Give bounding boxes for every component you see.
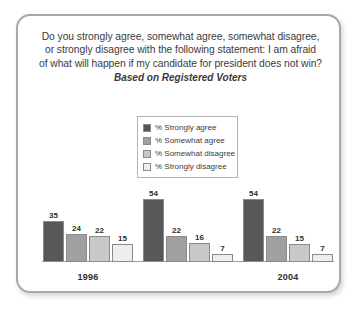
bar-strongly-disagree[interactable]	[312, 254, 333, 262]
legend-item-strongly-disagree: % Strongly disagree	[143, 160, 232, 173]
bar-strongly-disagree[interactable]	[112, 244, 133, 262]
legend-label-strongly-agree: % Strongly agree	[155, 123, 216, 132]
bar-strongly-agree[interactable]	[243, 199, 264, 262]
bar-value-label: 16	[188, 233, 211, 242]
bar-strongly-agree[interactable]	[43, 221, 64, 262]
bar-group-2008: 54221572008	[242, 192, 334, 262]
bar-slot: 35	[42, 192, 65, 262]
title-line-3: of what will happen if my candidate for …	[26, 57, 335, 70]
legend-item-somewhat-agree: % Somewhat agree	[143, 134, 232, 147]
bar-slot: 7	[211, 192, 234, 262]
bar-somewhat-agree[interactable]	[266, 236, 287, 262]
title-line-2: or strongly disagree with the following …	[26, 43, 335, 56]
bar-value-label: 7	[311, 244, 334, 253]
bar-value-label: 15	[288, 234, 311, 243]
bar-somewhat-agree[interactable]	[66, 234, 87, 262]
bar-group-bars: 5422157	[242, 192, 334, 262]
bar-slot: 54	[242, 192, 265, 262]
bar-slot: 22	[88, 192, 111, 262]
bar-value-label: 7	[211, 244, 234, 253]
chart-subtitle: Based on Registered Voters	[26, 70, 335, 85]
bar-slot: 16	[188, 192, 211, 262]
legend-label-somewhat-agree: % Somewhat agree	[155, 136, 225, 145]
legend-item-somewhat-disagree: % Somewhat disagree	[143, 147, 232, 160]
bar-group-2004: 54221672004	[142, 192, 234, 262]
legend-swatch-strongly-agree	[143, 124, 151, 132]
bar-value-label: 22	[265, 226, 288, 235]
bar-slot: 15	[288, 192, 311, 262]
legend-swatch-somewhat-disagree	[143, 150, 151, 158]
legend-label-somewhat-disagree: % Somewhat disagree	[155, 149, 235, 158]
bar-strongly-agree[interactable]	[143, 199, 164, 262]
legend-swatch-somewhat-agree	[143, 137, 151, 145]
x-axis-label-1996: 1996	[42, 272, 134, 282]
bar-value-label: 22	[165, 226, 188, 235]
bar-slot: 54	[142, 192, 165, 262]
bar-group-bars: 35242215	[42, 192, 134, 262]
chart-legend: % Strongly agree % Somewhat agree % Some…	[137, 116, 238, 178]
bar-somewhat-agree[interactable]	[166, 236, 187, 262]
bar-value-label: 54	[242, 189, 265, 198]
bar-somewhat-disagree[interactable]	[189, 243, 210, 262]
title-line-1: Do you strongly agree, somewhat agree, s…	[26, 30, 335, 43]
chart-title-block: Do you strongly agree, somewhat agree, s…	[26, 30, 335, 85]
bar-group-1996: 352422151996	[42, 192, 134, 262]
bar-value-label: 35	[42, 211, 65, 220]
bar-somewhat-disagree[interactable]	[89, 236, 110, 262]
bar-somewhat-disagree[interactable]	[289, 244, 310, 262]
bar-slot: 22	[165, 192, 188, 262]
legend-item-strongly-agree: % Strongly agree	[143, 121, 232, 134]
bar-value-label: 15	[111, 234, 134, 243]
legend-label-strongly-disagree: % Strongly disagree	[155, 162, 227, 171]
legend-swatch-strongly-disagree	[143, 163, 151, 171]
bar-value-label: 22	[88, 226, 111, 235]
chart-card: Do you strongly agree, somewhat agree, s…	[16, 14, 341, 293]
bar-group-bars: 5422167	[142, 192, 234, 262]
bar-chart-plot: 3524221519965422167200454221572008	[42, 192, 334, 284]
bar-slot: 15	[111, 192, 134, 262]
bar-slot: 24	[65, 192, 88, 262]
bar-slot: 22	[265, 192, 288, 262]
x-axis-label-2004: 2004	[242, 272, 334, 282]
bar-value-label: 24	[65, 224, 88, 233]
bar-slot: 7	[311, 192, 334, 262]
bar-strongly-disagree[interactable]	[212, 254, 233, 262]
bar-value-label: 54	[142, 189, 165, 198]
